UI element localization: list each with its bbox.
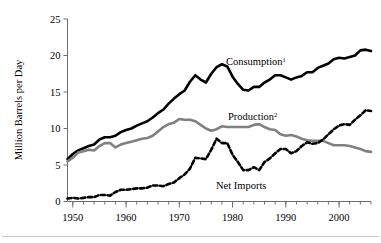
production-label: Production2: [228, 111, 277, 123]
axes-group: [68, 19, 372, 202]
net-imports-label: Net Imports: [216, 180, 266, 191]
consumption-label: Consumption1: [226, 56, 286, 68]
series-lines: [68, 50, 372, 199]
x-tick-label: 1950: [62, 212, 83, 223]
x-tick-label: 1970: [169, 212, 190, 223]
y-axis-ticks: 0510152025: [50, 14, 68, 208]
y-tick-label: 15: [50, 87, 61, 98]
y-axis-title: Million Barrels per Day: [13, 59, 24, 160]
x-axis-ticks: 195019601970198019902000: [62, 202, 349, 223]
chart-figure: 0510152025 195019601970198019902000 Mill…: [0, 0, 381, 243]
y-tick-label: 20: [50, 50, 61, 61]
x-tick-label: 1980: [222, 212, 243, 223]
y-tick-label: 25: [50, 14, 61, 25]
x-tick-label: 1990: [275, 212, 296, 223]
x-tick-label: 1960: [116, 212, 137, 223]
x-tick-label: 2000: [329, 212, 350, 223]
petroleum-line-chart: 0510152025 195019601970198019902000 Mill…: [0, 0, 381, 243]
y-tick-label: 10: [50, 123, 61, 134]
y-tick-label: 0: [55, 196, 60, 207]
y-tick-label: 5: [55, 160, 60, 171]
